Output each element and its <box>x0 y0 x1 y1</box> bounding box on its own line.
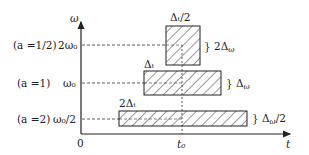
time-frequency-diagram: ω t 0 t₀ (a =1/2) 2ω₀ Δₜ/2 } 2Δω (a =1) … <box>0 0 309 155</box>
width-label-2dt: 2Δₜ <box>119 97 136 109</box>
t0-label: t₀ <box>177 138 186 150</box>
x-axis-label: t <box>286 138 291 150</box>
height-label-dw: } Δω <box>226 77 250 91</box>
scale-label-one: (a =1) <box>17 77 50 89</box>
diagram-svg: ω t 0 t₀ (a =1/2) 2ω₀ Δₜ/2 } 2Δω (a =1) … <box>0 0 309 155</box>
y-axis-label: ω <box>70 12 79 24</box>
height-label-dw-half: } Δω/2 <box>252 112 286 126</box>
scale-label-half: (a =1/2) <box>13 39 57 51</box>
tile-scale-half <box>166 26 200 65</box>
width-label-half: Δₜ/2 <box>170 11 190 23</box>
freq-label-w0-half: ω₀/2 <box>53 113 76 125</box>
scale-label-two: (a =2) <box>17 113 50 125</box>
freq-label-w0: ω₀ <box>63 77 76 89</box>
height-label-2dw: } 2Δω <box>204 40 234 54</box>
tile-scale-two <box>119 111 247 126</box>
origin-label: 0 <box>77 137 84 149</box>
freq-label-2w0: 2ω₀ <box>58 39 77 51</box>
width-label-dt: Δₜ <box>144 58 155 70</box>
